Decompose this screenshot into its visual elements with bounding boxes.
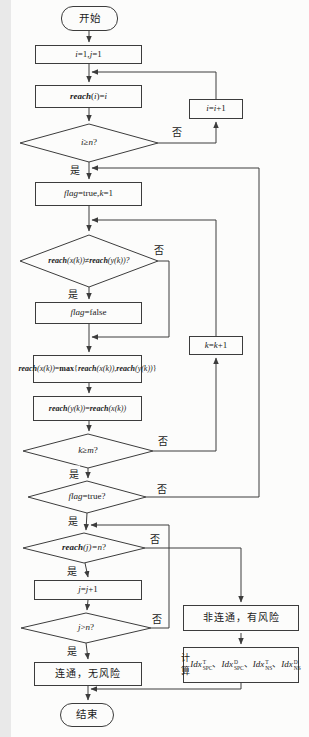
edge-label-yes-2: 是: [67, 286, 79, 301]
edge-label-no-6: 否: [151, 611, 163, 626]
edge-d5-no: [145, 548, 241, 602]
edge-label-yes-1: 是: [69, 162, 81, 177]
edge-label-yes-5: 是: [66, 563, 78, 578]
edge-label-yes-4: 是: [67, 513, 79, 528]
edge-label-yes-3: 是: [68, 466, 80, 481]
end-terminal: 结束: [60, 703, 114, 727]
edge-label-no-1: 否: [171, 124, 183, 139]
reach-j-n-diamond-label: reach(j)=n?: [23, 533, 145, 563]
edge-label-yes-6: 是: [66, 643, 78, 658]
reach-init-box: reach(i)=i: [35, 85, 142, 108]
reach-assign-box: reach(y(k))=reach(x(k)): [33, 396, 142, 421]
j-increment-box: j=j+1: [34, 580, 142, 600]
i-increment-box: i=i+1: [189, 99, 243, 119]
not-connected-box: 非连通，有风险: [183, 605, 299, 631]
j-gt-n-diamond-label: j>n?: [21, 613, 151, 643]
reach-neq-diamond-label: reach(x(k)) ≠reach(y(k))?: [20, 235, 158, 287]
edge-d6-yes: [86, 643, 88, 659]
edge-label-no-2: 否: [153, 242, 165, 257]
k-ge-m-diamond-label: k≥m?: [23, 434, 153, 468]
i-ge-n-diamond-label: i≥n?: [20, 124, 158, 162]
flag-init-box: flag=true, k=1: [35, 182, 142, 206]
edge-d1-no: [158, 122, 216, 143]
reach-max-box: reach(x(k))=max{reach(x(k)),reach(y(k))}: [33, 355, 142, 383]
edge-label-no-3: 否: [157, 433, 169, 448]
flag-false-box: flag=false: [35, 302, 142, 324]
calc-index-box: 计算IdxTSPC、IdxDSPC、IdxTNS、IdxDNS: [183, 647, 299, 683]
edge-d4-yes: [86, 513, 87, 530]
flowchart-canvas: 开始 i=1, j=1 reach(i)=i i=i+1 flag=true, …: [11, 0, 309, 737]
edge-label-no-4: 否: [156, 481, 168, 496]
start-terminal: 开始: [61, 6, 118, 31]
flag-true-diamond-label: flag=true?: [28, 481, 146, 513]
edge-d5-yes: [85, 563, 88, 577]
k-increment-box: k=k+1: [189, 336, 243, 355]
edge-label-no-5: 否: [149, 531, 161, 546]
edge-jinc-d6: [87, 600, 88, 610]
connected-box: 连通，无风险: [34, 662, 142, 686]
init-box: i=1, j=1: [35, 45, 142, 64]
